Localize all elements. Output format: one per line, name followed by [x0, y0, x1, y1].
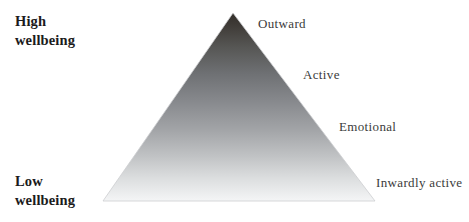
axis-label-high-line1: High [15, 12, 75, 31]
node-label-inwardly-active: Inwardly active [376, 175, 462, 190]
wellbeing-triangle-figure: High wellbeing Low wellbeing Outward Act… [0, 0, 469, 222]
node-label-emotional: Emotional [339, 119, 396, 134]
axis-label-high-line2: wellbeing [15, 31, 75, 50]
axis-label-low-wellbeing: Low wellbeing [15, 172, 75, 210]
triangle-shape [103, 13, 375, 201]
axis-label-low-line2: wellbeing [15, 191, 75, 210]
axis-label-high-wellbeing: High wellbeing [15, 12, 75, 50]
axis-label-low-line1: Low [15, 172, 75, 191]
node-label-outward: Outward [258, 16, 306, 31]
node-label-active: Active [303, 67, 340, 82]
